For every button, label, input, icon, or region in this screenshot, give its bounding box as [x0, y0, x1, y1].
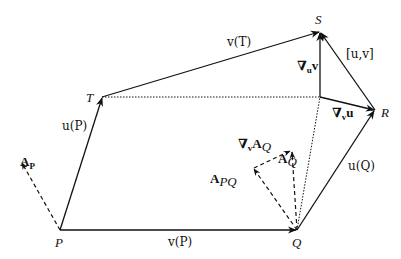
vector-lie-bracket [321, 33, 375, 110]
label-nabla-v-u: ∇vu [332, 106, 354, 122]
point-label-P: P [55, 236, 63, 249]
vector-A-P [22, 163, 60, 230]
label-nabla-u-v: ∇uv [297, 59, 318, 75]
label-nabla-v-A-Q: ∇vAQ [238, 137, 271, 153]
label-v-T: v(T) [227, 36, 251, 48]
label-lie-bracket: [u,v] [346, 48, 374, 60]
point-label-Q: Q [292, 236, 301, 249]
label-A-P: AP [20, 155, 35, 171]
dotted-line-Q-corner [297, 97, 320, 230]
vector-u-P [60, 98, 102, 230]
label-v-P: v(P) [168, 236, 192, 248]
label-u-P: u(P) [62, 120, 87, 132]
point-label-S: S [315, 13, 322, 26]
label-A-PQ: APQ [210, 172, 237, 188]
vector-A-PQ [254, 169, 297, 230]
label-A-Q: AQ [278, 152, 297, 168]
vector-v-T [102, 32, 319, 97]
diagram-canvas [0, 0, 401, 259]
point-label-T: T [86, 91, 93, 104]
point-label-R: R [381, 106, 389, 119]
label-u-Q: u(Q) [348, 160, 375, 172]
